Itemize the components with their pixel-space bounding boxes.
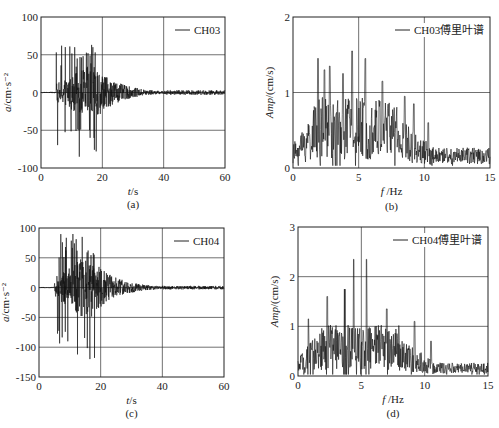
- x-axis-label: t/s: [126, 394, 136, 406]
- y-tick-label: 0: [290, 370, 296, 382]
- x-axis-label: f /Hz: [381, 185, 403, 197]
- x-tick-label: 20: [97, 171, 109, 183]
- x-axis: 051015: [295, 379, 494, 391]
- x-tick-label: 0: [290, 171, 296, 183]
- figure: 0204060-100-50050100t/sa/cm·s⁻²CH03(a) 0…: [0, 0, 499, 428]
- x-axis: 0204060: [36, 380, 230, 392]
- y-tick-label: 1: [285, 87, 291, 99]
- panel-d-ch04-fourier-spectrum: 0510150123f /HzAmp/(cm/s)CH04傅里叶谱(d): [268, 221, 494, 420]
- grid-lines: [293, 17, 490, 168]
- x-tick-label: 20: [95, 380, 107, 392]
- y-axis: -150-100-50050100: [16, 222, 37, 383]
- y-tick-label: 2: [290, 271, 296, 283]
- y-tick-label: 50: [27, 49, 39, 61]
- y-tick-label: 50: [25, 252, 37, 264]
- x-tick-label: 60: [219, 380, 231, 392]
- y-tick-label: 0: [33, 87, 39, 99]
- panel-caption: (c): [125, 407, 138, 420]
- y-axis: 012: [285, 11, 291, 174]
- legend: CH04: [170, 234, 221, 248]
- panel-c-ch04-time-history: 0204060-150-100-50050100t/sa/cm·s⁻²CH04(…: [0, 222, 230, 420]
- x-axis-label: t/s: [128, 185, 138, 197]
- y-tick-label: 0: [31, 282, 37, 294]
- y-axis-label: a/cm·s⁻²: [0, 282, 11, 322]
- x-tick-label: 0: [295, 379, 301, 391]
- data-series-line: [41, 45, 225, 157]
- x-tick-label: 5: [356, 171, 362, 183]
- y-tick-label: -50: [23, 124, 38, 136]
- x-tick-label: 15: [483, 379, 495, 391]
- x-axis: 0204060: [38, 171, 231, 183]
- legend-label: CH03傅里叶谱: [414, 23, 484, 36]
- y-axis-label: Amp/(cm/s): [268, 276, 281, 329]
- panel-caption: (a): [127, 198, 140, 211]
- y-tick-label: -150: [16, 371, 37, 383]
- y-tick-label: 0: [285, 162, 291, 174]
- legend-label: CH04傅里叶谱: [412, 233, 482, 246]
- x-axis: 051015: [290, 171, 496, 183]
- y-tick-label: 1: [290, 320, 296, 332]
- y-axis: 0123: [290, 221, 296, 382]
- legend: CH03: [171, 23, 222, 37]
- data-series-line: [293, 51, 490, 166]
- x-tick-label: 10: [419, 379, 431, 391]
- panel-caption: (d): [387, 407, 400, 420]
- y-tick-label: 100: [22, 11, 39, 23]
- grid-lines: [39, 228, 224, 377]
- y-tick-label: 2: [285, 11, 291, 23]
- y-axis-label: Amp/(cm/s): [263, 67, 276, 120]
- y-tick-label: -100: [16, 341, 37, 353]
- x-tick-label: 10: [419, 171, 431, 183]
- x-axis-label: f /Hz: [382, 393, 404, 405]
- legend: CH04傅里叶谱: [389, 233, 485, 247]
- legend-label: CH03: [194, 24, 221, 36]
- y-tick-label: 100: [20, 222, 37, 234]
- y-axis-label: a/cm·s⁻²: [1, 72, 13, 112]
- y-tick-label: 3: [290, 221, 296, 233]
- panel-b-ch03-fourier-spectrum: 051015012f /HzAmp/(cm/s)CH03傅里叶谱(b): [263, 11, 496, 213]
- x-tick-label: 0: [36, 380, 42, 392]
- panel-a-ch03-time-history: 0204060-100-50050100t/sa/cm·s⁻²CH03(a): [1, 11, 231, 211]
- y-axis: -100-50050100: [18, 11, 39, 174]
- x-tick-label: 40: [158, 171, 170, 183]
- y-tick-label: -50: [21, 311, 36, 323]
- x-tick-label: 60: [220, 171, 232, 183]
- y-tick-label: -100: [18, 162, 39, 174]
- x-tick-label: 40: [157, 380, 169, 392]
- data-series-line: [39, 234, 224, 359]
- legend: CH03傅里叶谱: [391, 23, 487, 37]
- x-tick-label: 5: [359, 379, 365, 391]
- legend-label: CH04: [193, 235, 220, 247]
- plot-frame: [39, 228, 224, 377]
- panel-caption: (b): [385, 200, 398, 213]
- x-tick-label: 15: [485, 171, 497, 183]
- x-tick-label: 0: [38, 171, 44, 183]
